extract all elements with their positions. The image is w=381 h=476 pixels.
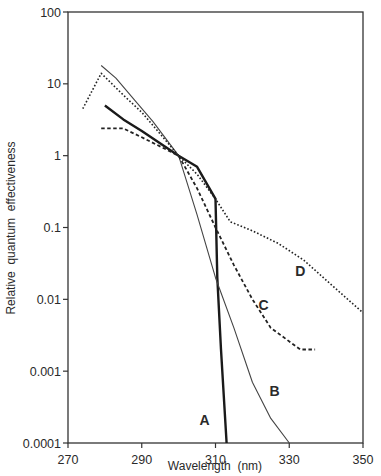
- x-tick-label: 270: [58, 453, 79, 467]
- series-c-line: [101, 128, 315, 349]
- x-tick-label: 330: [279, 453, 300, 467]
- y-tick-label: 1: [54, 149, 61, 163]
- series-d-line: [83, 73, 363, 312]
- y-axis-label: Relative quantum effectiveness: [4, 141, 18, 314]
- y-tick-label: 0.1: [44, 221, 61, 235]
- series-a-label: A: [199, 412, 209, 428]
- series-labels: ABCD: [199, 263, 305, 427]
- series-layer: [83, 66, 363, 444]
- series-b-label: B: [269, 383, 279, 399]
- y-tick-label: 0.0001: [23, 437, 61, 451]
- y-tick-label: 0.001: [30, 365, 61, 379]
- x-axis-label: Wavelength (nm): [168, 459, 262, 473]
- quantum-effectiveness-chart: 1001010.10.010.0010.0001 270290310330350…: [0, 0, 381, 476]
- y-tick-label: 0.01: [37, 293, 61, 307]
- x-tick-label: 290: [131, 453, 152, 467]
- y-tick-label: 10: [47, 77, 61, 91]
- y-tick-label: 100: [40, 6, 61, 20]
- series-a-line: [105, 106, 227, 444]
- series-d-label: D: [295, 263, 305, 279]
- x-tick-label: 350: [353, 453, 374, 467]
- series-c-label: C: [258, 297, 268, 313]
- y-axis: 1001010.10.010.0010.0001: [23, 6, 68, 451]
